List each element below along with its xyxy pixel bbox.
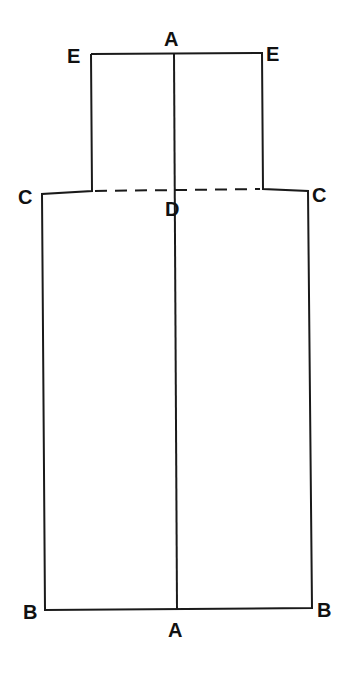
- label-e-left: E: [67, 45, 80, 67]
- label-e-right: E: [266, 43, 279, 65]
- label-a-top: A: [164, 28, 178, 50]
- label-a-bottom: A: [168, 619, 182, 641]
- label-b-right: B: [317, 599, 331, 621]
- label-b-left: B: [23, 601, 37, 623]
- label-c-right: C: [312, 184, 326, 206]
- label-c-left: C: [18, 186, 32, 208]
- center-line-a-a: [174, 53, 177, 609]
- label-d: D: [165, 198, 179, 220]
- dashed-line-d: [95, 189, 260, 191]
- pattern-diagram: A E E C C D B B A: [0, 0, 355, 687]
